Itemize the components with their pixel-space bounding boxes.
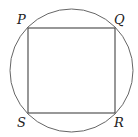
diagram-canvas: P Q S R bbox=[0, 0, 138, 137]
vertex-label-q: Q bbox=[114, 12, 125, 27]
square-pqrs bbox=[28, 28, 115, 113]
vertex-label-s: S bbox=[17, 115, 26, 130]
vertex-label-p: P bbox=[16, 12, 26, 27]
vertex-label-r: R bbox=[113, 115, 124, 130]
